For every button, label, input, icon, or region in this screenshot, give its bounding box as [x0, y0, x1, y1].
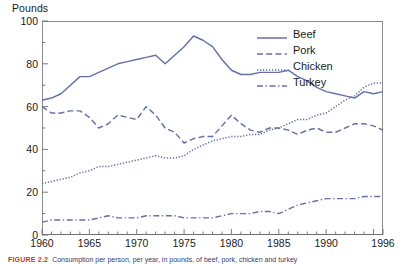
y-tick-label: 100 — [20, 15, 38, 27]
x-tick-label: 1965 — [78, 237, 101, 249]
legend-item-turkey[interactable]: Turkey — [257, 74, 377, 90]
chart-figure: Pounds 100806040200 19601965197019751980… — [0, 0, 403, 265]
legend-item-chicken[interactable]: Chicken — [257, 58, 377, 74]
legend-label: Pork — [293, 45, 316, 56]
y-tick-label: 20 — [26, 186, 38, 198]
legend-swatch-pork-icon — [257, 45, 287, 55]
y-tick-label: 80 — [26, 58, 38, 70]
y-tick-label: 40 — [26, 143, 38, 155]
series-line-turkey — [42, 196, 383, 222]
x-tick-label: 1975 — [172, 237, 195, 249]
series-line-pork — [42, 107, 383, 143]
figure-caption: FIGURE 2.2Consumption per person, per ye… — [8, 256, 403, 265]
x-tick-label: 1996 — [371, 237, 394, 249]
x-tick-label: 1960 — [30, 237, 53, 249]
y-axis-tick-labels: 100806040200 — [0, 21, 38, 235]
caption-text: Consumption per person, per year, in pou… — [52, 256, 297, 263]
x-tick-label: 1970 — [125, 237, 148, 249]
legend-swatch-beef-icon — [257, 29, 287, 39]
chart-legend: BeefPorkChickenTurkey — [257, 26, 377, 90]
x-axis-tick-labels: 19601965197019751980198519901996 — [42, 237, 383, 253]
legend-item-pork[interactable]: Pork — [257, 42, 377, 58]
legend-swatch-chicken-icon — [257, 61, 287, 71]
x-tick-label: 1980 — [220, 237, 243, 249]
legend-item-beef[interactable]: Beef — [257, 26, 377, 42]
y-axis-title: Pounds — [12, 2, 48, 14]
legend-swatch-turkey-icon — [257, 77, 287, 87]
legend-label: Beef — [293, 29, 316, 40]
caption-figure-label: FIGURE 2.2 — [8, 256, 48, 263]
series-line-chicken — [42, 83, 383, 184]
x-tick-label: 1990 — [314, 237, 337, 249]
legend-label: Turkey — [293, 77, 326, 88]
y-tick-label: 60 — [26, 101, 38, 113]
legend-label: Chicken — [293, 61, 333, 72]
x-tick-label: 1985 — [267, 237, 290, 249]
